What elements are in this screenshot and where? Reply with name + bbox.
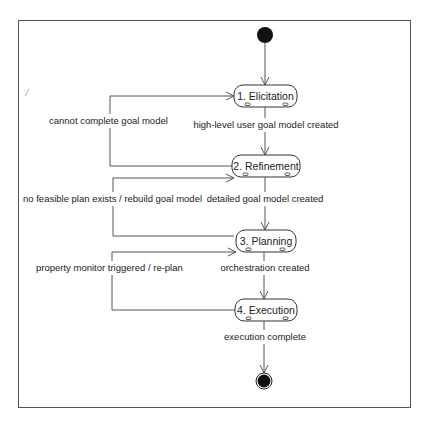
decomposition-icon [285,173,290,176]
decomposition-icon [280,248,285,251]
state-planning[interactable]: 3. Planning [236,230,296,252]
label-detailed-goal-model-created: detailed goal model created [207,193,324,204]
stray-mark [25,89,29,96]
label-high-level-user-goal-model-created: high-level user goal model created [193,119,338,130]
initial-node-icon [257,27,273,43]
state-label-execution: 4. Execution [237,304,295,316]
diagram-frame [19,21,411,408]
decomposition-icon [283,317,288,320]
state-machine-diagram: 1. Elicitation high-level user goal mode… [0,0,426,425]
state-label-planning: 3. Planning [240,235,293,247]
label-cannot-complete-goal-model: cannot complete goal model [49,115,168,126]
state-label-refinement: 2. Refinement [233,160,298,172]
decomposition-icon [245,103,250,106]
decomposition-icon [243,173,248,176]
label-no-feasible-plan-exists: no feasible plan exists / rebuild goal m… [23,193,202,204]
state-refinement[interactable]: 2. Refinement [232,155,300,177]
label-property-monitor-triggered: property monitor triggered / re-plan [36,262,183,273]
decomposition-icon [246,317,251,320]
state-execution[interactable]: 4. Execution [235,299,297,321]
decomposition-icon [246,248,251,251]
state-elicitation[interactable]: 1. Elicitation [234,85,297,107]
label-execution-complete: execution complete [224,331,306,342]
transition-execution-planning [112,252,236,310]
decomposition-icon [283,103,288,106]
state-label-elicitation: 1. Elicitation [237,90,294,102]
label-orchestration-created: orchestration created [220,262,309,273]
final-node-dot-icon [258,375,271,388]
transition-planning-refinement [113,178,234,236]
